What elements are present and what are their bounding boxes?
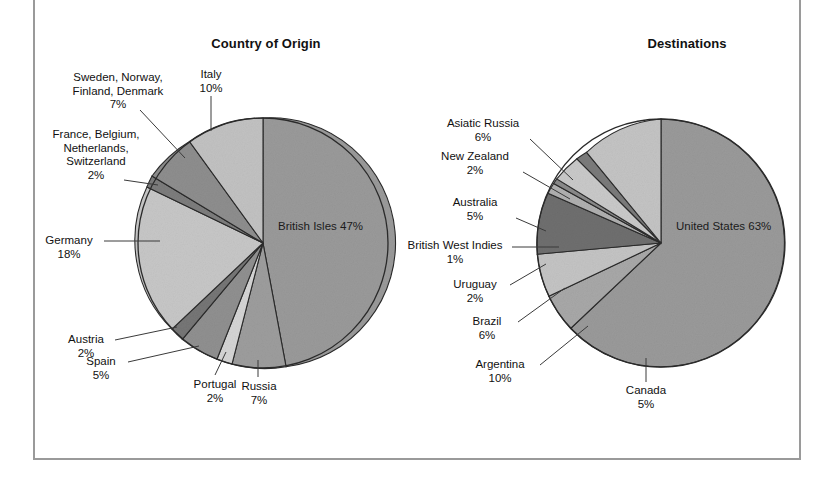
label-nordics-line2: Finland, Denmark (48, 85, 188, 99)
label-united-states: United States 63% (676, 219, 771, 233)
label-asiatic-russia: Asiatic Russia 6% (435, 117, 531, 144)
label-nordics-pct: 7% (48, 98, 188, 112)
label-australia-pct: 5% (437, 210, 513, 224)
label-british-west-indies: British West Indies 1% (399, 239, 511, 266)
label-austria-name: Austria (68, 333, 104, 345)
label-france-benelux-pct: 2% (34, 169, 158, 183)
label-british-west-indies-pct: 1% (399, 253, 511, 267)
label-argentina-pct: 10% (464, 372, 536, 386)
label-france-benelux-line3: Switzerland (34, 155, 158, 169)
label-uruguay-pct: 2% (443, 292, 507, 306)
label-new-zealand: New Zealand 2% (428, 150, 522, 177)
label-france-benelux-line1: France, Belgium, (53, 128, 140, 140)
label-germany: Germany 18% (34, 234, 104, 261)
label-british-isles-pct: 47% (340, 220, 363, 232)
label-united-states-name: United States (676, 220, 745, 232)
label-argentina: Argentina 10% (464, 358, 536, 385)
label-canada: Canada 5% (618, 384, 674, 411)
label-spain-pct: 5% (76, 369, 126, 383)
label-new-zealand-name: New Zealand (441, 150, 509, 162)
label-uruguay: Uruguay 2% (443, 278, 507, 305)
label-uruguay-name: Uruguay (453, 278, 496, 290)
label-italy-pct: 10% (179, 82, 243, 96)
label-brazil-name: Brazil (473, 315, 502, 327)
label-spain: Spain 5% (76, 355, 126, 382)
label-australia-name: Australia (453, 196, 498, 208)
label-nordics: Sweden, Norway, Finland, Denmark 7% (48, 71, 188, 112)
label-russia-pct: 7% (232, 394, 286, 408)
label-france-benelux-line2: Netherlands, (34, 142, 158, 156)
figure-root: Country of Origin Destinations British I… (0, 0, 829, 477)
label-italy-name: Italy (200, 68, 221, 80)
label-new-zealand-pct: 2% (428, 164, 522, 178)
label-british-west-indies-name: British West Indies (407, 239, 502, 251)
label-nordics-line1: Sweden, Norway, (73, 71, 162, 83)
label-spain-name: Spain (86, 355, 115, 367)
label-germany-pct: 18% (34, 248, 104, 262)
label-british-isles: British Isles 47% (278, 219, 363, 233)
label-asiatic-russia-name: Asiatic Russia (447, 117, 519, 129)
label-australia: Australia 5% (437, 196, 513, 223)
label-russia: Russia 7% (232, 380, 286, 407)
label-canada-pct: 5% (618, 398, 674, 412)
label-united-states-pct: 63% (748, 220, 771, 232)
label-british-isles-name: British Isles (278, 220, 337, 232)
chart-title-destinations: Destinations (592, 36, 782, 51)
label-france-benelux-switzerland: France, Belgium, Netherlands, Switzerlan… (34, 128, 158, 182)
label-asiatic-russia-pct: 6% (435, 131, 531, 145)
label-portugal-name: Portugal (194, 378, 237, 390)
label-russia-name: Russia (241, 380, 276, 392)
label-argentina-name: Argentina (475, 358, 524, 370)
label-canada-name: Canada (626, 384, 666, 396)
label-italy: Italy 10% (179, 68, 243, 95)
label-brazil-pct: 6% (460, 329, 514, 343)
chart-title-origin: Country of Origin (160, 36, 372, 51)
label-brazil: Brazil 6% (460, 315, 514, 342)
label-germany-name: Germany (45, 234, 92, 246)
